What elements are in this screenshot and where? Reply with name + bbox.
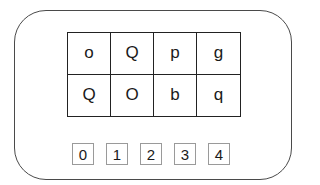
- grid-cell: p: [154, 33, 197, 75]
- answer-option-1[interactable]: 1: [106, 143, 128, 165]
- grid-cell: q: [197, 75, 240, 117]
- answer-option-2[interactable]: 2: [140, 143, 162, 165]
- letter-grid: o Q p g Q O b q: [67, 32, 241, 117]
- answer-option-0[interactable]: 0: [72, 143, 94, 165]
- answer-option-3[interactable]: 3: [174, 143, 196, 165]
- grid-cell: o: [68, 33, 111, 75]
- answer-option-4[interactable]: 4: [208, 143, 230, 165]
- grid-cell: Q: [68, 75, 111, 117]
- grid-cell: Q: [111, 33, 154, 75]
- grid-cell: O: [111, 75, 154, 117]
- grid-cell: g: [197, 33, 240, 75]
- answer-options: 0 1 2 3 4: [72, 143, 230, 165]
- grid-cell: b: [154, 75, 197, 117]
